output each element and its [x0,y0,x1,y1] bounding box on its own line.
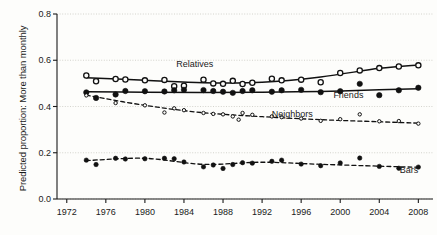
datapoint-friends [396,88,401,93]
datapoint-relatives [201,77,206,82]
x-tick-label: 1988 [213,207,233,217]
datapoint-friends [113,92,118,97]
x-tick-label: 1984 [174,207,194,217]
datapoint-neighbors [114,101,117,104]
datapoint-relatives [211,81,216,86]
datapoint-bars [182,160,186,164]
datapoint-bars [94,162,98,166]
datapoint-relatives [416,63,421,68]
datapoint-friends [201,87,206,92]
x-tick-label: 1992 [252,207,272,217]
datapoint-friends [377,92,382,97]
datapoint-neighbors [231,115,234,118]
datapoint-relatives [299,77,304,82]
y-axis-title: Predicted proportion: More than monthly [17,3,28,215]
chart-canvas [0,0,437,235]
y-tick-label: 0.6 [29,55,51,65]
series-label-friends: Friends [333,90,363,100]
datapoint-neighbors [202,111,205,114]
datapoint-friends [211,88,216,93]
datapoint-friends [181,87,186,92]
datapoint-relatives [240,81,245,86]
datapoint-bars [240,160,244,164]
fit-line-neighbors [86,95,418,123]
datapoint-bars [377,164,381,168]
datapoint-relatives [220,81,225,86]
x-tick-label: 1972 [57,207,77,217]
datapoint-bars [250,161,254,165]
datapoint-bars [143,157,147,161]
x-tick-label: 2004 [369,207,389,217]
datapoint-neighbors [397,119,400,122]
legend-marker-neighbors [237,118,240,121]
x-tick-label: 1976 [96,207,116,217]
datapoint-neighbors [241,111,244,114]
datapoint-friends [416,85,421,90]
series-label-relatives: Relatives [176,59,213,69]
datapoint-friends [318,89,323,94]
datapoint-friends [240,88,245,93]
x-tick-label: 1980 [135,207,155,217]
datapoint-relatives [230,78,235,83]
datapoint-bars [279,158,283,162]
axes [53,14,433,203]
datapoint-neighbors [358,113,361,116]
y-tick-label: 0.4 [29,102,51,112]
y-tick-label: 0.2 [29,148,51,158]
y-tick-label: 0.0 [29,194,51,204]
datapoint-friends [171,88,176,93]
datapoint-relatives [396,64,401,69]
datapoint-bars [162,156,166,160]
datapoint-bars [338,161,342,165]
x-tick-label: 2008 [408,207,428,217]
datapoint-relatives [269,76,274,81]
datapoint-bars [201,165,205,169]
datapoint-neighbors [221,113,224,116]
datapoint-relatives [338,70,343,75]
y-tick-label: 0.8 [29,9,51,19]
series-relatives [84,63,421,89]
datapoint-friends [123,88,128,93]
datapoint-neighbors [339,118,342,121]
datapoint-bars [358,156,362,160]
datapoint-relatives [318,80,323,85]
datapoint-bars [221,166,225,170]
datapoint-relatives [123,77,128,82]
datapoint-relatives [162,77,167,82]
datapoint-neighbors [85,94,88,97]
datapoint-friends [250,88,255,93]
datapoint-neighbors [319,119,322,122]
datapoint-relatives [377,66,382,71]
datapoint-friends [357,81,362,86]
datapoint-friends [220,89,225,94]
datapoint-relatives [84,73,89,78]
series-label-bars: Bars [400,165,419,175]
datapoint-friends [162,89,167,94]
datapoint-bars [123,157,127,161]
series-neighbors [85,94,420,126]
series-bars [84,156,420,171]
datapoint-bars [211,163,215,167]
datapoint-friends [279,88,284,93]
datapoint-neighbors [182,109,185,112]
chart-figure: Predicted proportion: More than monthly0… [0,0,437,235]
datapoint-bars [231,162,235,166]
datapoint-neighbors [172,107,175,110]
datapoint-neighbors [417,122,420,125]
datapoint-neighbors [163,111,166,114]
datapoint-relatives [113,76,118,81]
datapoint-bars [172,157,176,161]
datapoint-neighbors [378,120,381,123]
datapoint-friends [142,89,147,94]
datapoint-bars [318,164,322,168]
datapoint-relatives [93,79,98,84]
gridlines [57,14,433,199]
datapoint-relatives [250,80,255,85]
datapoint-friends [269,89,274,94]
datapoint-neighbors [143,104,146,107]
datapoint-relatives [357,68,362,73]
datapoint-bars [84,158,88,162]
datapoint-neighbors [212,112,215,115]
datapoint-friends [298,87,303,92]
datapoint-bars [270,159,274,163]
